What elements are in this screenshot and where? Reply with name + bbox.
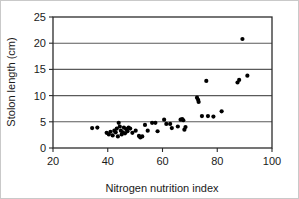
- data-point: [204, 79, 208, 83]
- data-point: [95, 125, 99, 129]
- data-point: [220, 109, 224, 113]
- data-point: [140, 134, 144, 138]
- data-point: [181, 118, 185, 122]
- data-point: [183, 125, 187, 129]
- data-point: [108, 130, 112, 134]
- data-point: [153, 121, 157, 125]
- data-point: [162, 118, 166, 122]
- x-tick-label-80: 80: [211, 155, 223, 167]
- data-point: [164, 122, 168, 126]
- x-axis-title: Nitrogen nutrition index: [105, 182, 219, 194]
- data-point: [206, 114, 210, 118]
- y-tick-label-5: 5: [40, 116, 46, 128]
- data-point: [117, 121, 121, 125]
- data-point: [128, 127, 132, 131]
- data-point: [143, 123, 147, 127]
- scatter-chart-figure: 0510152025 20406080100 Nitrogen nutritio…: [0, 0, 299, 199]
- y-axis-title: Stolon length (cm): [5, 37, 17, 126]
- y-tick-label-25: 25: [34, 11, 46, 23]
- data-point: [146, 129, 150, 133]
- data-point: [118, 124, 122, 128]
- x-tick-label-20: 20: [47, 155, 59, 167]
- data-point: [176, 124, 180, 128]
- x-tick-label-40: 40: [102, 155, 114, 167]
- chart-svg: 0510152025 20406080100 Nitrogen nutritio…: [1, 1, 298, 198]
- data-point: [111, 133, 115, 137]
- x-tick-label-60: 60: [156, 155, 168, 167]
- x-axis-tick-labels: 20406080100: [47, 155, 281, 167]
- data-point: [116, 134, 120, 138]
- data-point: [237, 78, 241, 82]
- y-tick-label-0: 0: [40, 142, 46, 154]
- y-axis-tick-labels: 0510152025: [34, 11, 46, 154]
- data-point: [170, 126, 174, 130]
- data-point: [245, 74, 249, 78]
- x-tick-label-100: 100: [263, 155, 281, 167]
- data-point: [211, 114, 215, 118]
- data-point: [90, 126, 94, 130]
- data-point: [114, 130, 118, 134]
- y-tick-label-20: 20: [34, 37, 46, 49]
- y-tick-label-15: 15: [34, 63, 46, 75]
- data-point: [200, 114, 204, 118]
- data-point: [134, 129, 138, 133]
- y-tick-label-10: 10: [34, 90, 46, 102]
- data-point: [197, 100, 201, 104]
- data-point: [240, 37, 244, 41]
- data-point: [168, 122, 172, 126]
- data-point: [155, 129, 159, 133]
